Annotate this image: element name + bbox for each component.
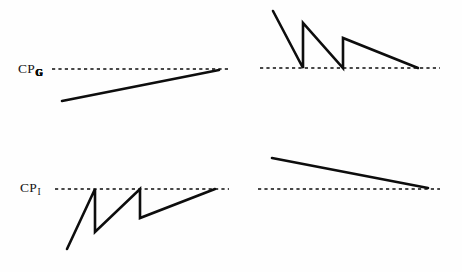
reference-label-upper-subscript: G [35,68,42,78]
falling-sawtooth-upper-right [273,11,418,68]
reference-label-upper-base: CP [18,61,35,76]
upper-left-panel [52,69,229,101]
lower-right-panel [258,158,440,189]
figure-drawing [0,0,462,272]
reference-label-lower-subscript: I [37,187,40,197]
figure-canvas: CPG CPI [0,0,462,272]
reference-label-upper: CPG [18,60,43,78]
reference-label-lower: CPI [20,179,41,197]
rising-sawtooth-lower-left [67,189,215,249]
rising-line-upper-left [62,70,219,101]
lower-left-panel [55,189,229,249]
reference-label-lower-base: CP [20,180,37,195]
falling-line-lower-right [272,158,428,188]
upper-right-panel [260,11,440,68]
